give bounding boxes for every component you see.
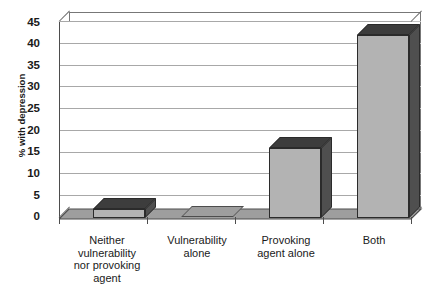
x-label-provoking-agent-alone: Provoking agent alone xyxy=(238,234,334,259)
bar-side xyxy=(321,137,332,218)
x-label-both: Both xyxy=(326,234,422,247)
y-tick-20: 20 xyxy=(18,125,40,135)
x-label-line-1: Provoking xyxy=(238,234,334,247)
bar-top xyxy=(93,198,156,209)
y-tick-5: 5 xyxy=(18,190,40,200)
bar-neither-vulnerability-nor-provoking-agent xyxy=(93,209,145,218)
x-label-line-3: nor provoking xyxy=(59,259,155,272)
y-tick-25: 25 xyxy=(18,103,40,113)
x-label-line-2: vulnerability xyxy=(59,247,155,260)
bar-side xyxy=(409,24,420,218)
x-tick-start xyxy=(59,217,60,224)
y-tick-0: 0 xyxy=(18,211,40,221)
y-tick-45: 45 xyxy=(18,17,40,27)
x-tick-2 xyxy=(235,217,236,224)
x-axis-category-labels: Neither vulnerability nor provoking agen… xyxy=(59,234,431,296)
x-tick-end xyxy=(411,217,412,224)
bar-both xyxy=(357,35,409,218)
bar-face xyxy=(93,209,145,218)
y-tick-10: 10 xyxy=(18,168,40,178)
x-label-line-1: Both xyxy=(326,234,422,247)
y-tick-35: 35 xyxy=(18,60,40,70)
y-tick-15: 15 xyxy=(18,146,40,156)
x-label-neither-vulnerability-nor-provoking-agent: Neither vulnerability nor provoking agen… xyxy=(59,234,155,284)
bar-top xyxy=(269,137,332,148)
x-label-vulnerability-alone: Vulnerability alone xyxy=(149,234,245,259)
x-label-line-1: Neither xyxy=(59,234,155,247)
x-tick-1 xyxy=(147,217,148,224)
plot-area xyxy=(59,22,421,218)
y-tick-30: 30 xyxy=(18,81,40,91)
x-label-line-1: Vulnerability xyxy=(149,234,245,247)
bar-provoking-agent-alone xyxy=(269,148,321,218)
bar-face xyxy=(181,217,233,218)
gridline-45 xyxy=(60,21,412,22)
bar-top xyxy=(357,24,420,35)
y-axis-tick-labels: 45 40 35 30 25 20 15 10 5 0 xyxy=(16,0,40,298)
bar-chart: % with depression 45 40 35 30 25 20 15 1… xyxy=(0,0,432,298)
y-tick-40: 40 xyxy=(18,38,40,48)
x-tick-3 xyxy=(323,217,324,224)
x-label-line-2: agent alone xyxy=(238,247,334,260)
bar-face xyxy=(357,35,409,218)
x-label-line-2: alone xyxy=(149,247,245,260)
bar-vulnerability-alone xyxy=(181,217,233,218)
bar-top xyxy=(181,206,244,217)
x-label-line-4: agent xyxy=(59,272,155,285)
bar-face xyxy=(269,148,321,218)
